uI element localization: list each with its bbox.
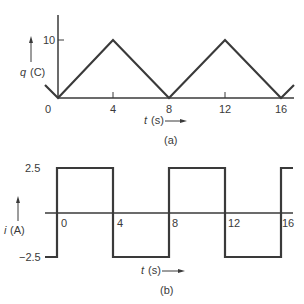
x-tick-label-4: 4 (110, 103, 116, 115)
caption-b: (b) (160, 284, 173, 296)
y-label-unit-a: (C) (30, 66, 45, 78)
x-tick-label-4: 4 (117, 217, 123, 229)
caption-a: (a) (164, 134, 177, 146)
x-tick-label-16: 16 (282, 217, 294, 229)
x-label-unit-a: (s) (151, 114, 164, 126)
x-tick-label-16: 16 (275, 103, 287, 115)
y-label-var-b: i (4, 224, 7, 236)
figure: 10 0 4 8 12 16 q (C) t (s) (a) 2.5 −2.5 … (0, 0, 304, 304)
y-label-var-a: q (20, 66, 27, 78)
panel-a: 10 0 4 8 12 16 q (C) t (s) (a) (20, 15, 294, 146)
arrow-up-icon (29, 36, 33, 43)
charge-waveform (45, 40, 294, 98)
panel-b: 2.5 −2.5 0 4 8 12 16 i (A) t (s) (b) (4, 162, 294, 296)
x-label-unit-b: (s) (148, 264, 161, 276)
y-tick-label-10: 10 (43, 34, 55, 46)
y-label-unit-b: (A) (10, 224, 25, 236)
x-tick-label-8: 8 (172, 217, 178, 229)
x-tick-label-8: 8 (166, 103, 172, 115)
x-tick-label-0: 0 (45, 103, 51, 115)
arrow-right-icon (180, 119, 187, 123)
x-tick-label-0: 0 (61, 217, 67, 229)
x-tick-label-12: 12 (219, 103, 231, 115)
x-label-var-b: t (141, 264, 145, 276)
arrow-up-icon (16, 196, 20, 203)
arrow-right-icon (178, 269, 185, 273)
y-tick-label-neg-2.5: −2.5 (19, 251, 41, 263)
x-label-var-a: t (144, 114, 148, 126)
x-tick-label-12: 12 (228, 217, 240, 229)
y-tick-label-2.5: 2.5 (25, 162, 40, 174)
